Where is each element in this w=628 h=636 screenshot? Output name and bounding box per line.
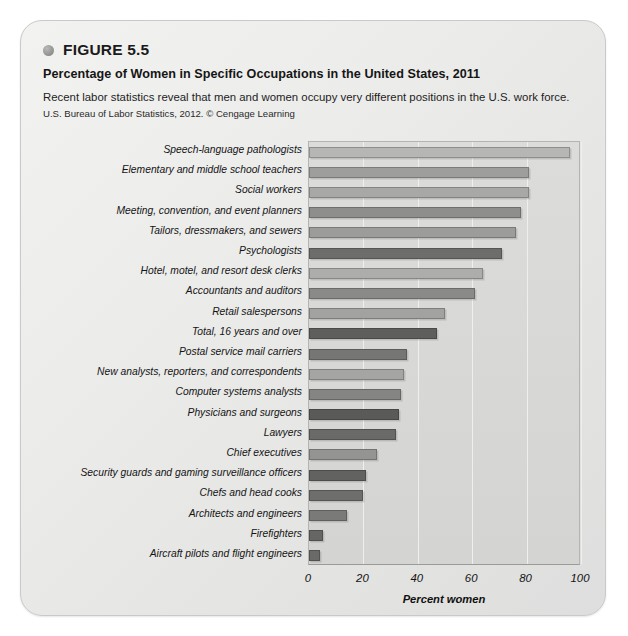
y-axis-tick-label: Chief executives: [50, 447, 302, 458]
y-axis-tick-label: New analysts, reporters, and corresponde…: [50, 366, 302, 377]
bar: [309, 288, 475, 299]
y-axis-tick-label: Security guards and gaming surveillance …: [50, 467, 302, 478]
bar: [309, 409, 399, 420]
y-axis-tick-label: Total, 16 years and over: [50, 326, 302, 337]
x-axis-tick-label: 60: [465, 572, 478, 584]
circle-bullet-icon: [43, 45, 54, 56]
figure-title: Percentage of Women in Specific Occupati…: [43, 67, 583, 81]
y-axis-tick-label: Aircraft pilots and flight engineers: [50, 548, 302, 559]
bar: [309, 510, 347, 521]
x-axis-tick-label: 100: [570, 572, 589, 584]
bar: [309, 248, 502, 259]
y-axis-tick-label: Elementary and middle school teachers: [50, 164, 302, 175]
y-axis-tick-label: Computer systems analysts: [50, 386, 302, 397]
y-axis-tick-label: Speech-language pathologists: [50, 144, 302, 155]
bar: [309, 268, 483, 279]
bar-rows: [309, 142, 579, 564]
y-axis-tick-label: Hotel, motel, and resort desk clerks: [50, 265, 302, 276]
y-axis-tick-label: Tailors, dressmakers, and sewers: [50, 225, 302, 236]
grid-line: [581, 142, 582, 564]
bar: [309, 530, 323, 541]
bar: [309, 207, 521, 218]
y-axis-tick-label: Chefs and head cooks: [50, 487, 302, 498]
bar: [309, 308, 445, 319]
y-axis-tick-label: Architects and engineers: [50, 508, 302, 519]
y-axis-tick-label: Physicians and surgeons: [50, 407, 302, 418]
figure-header: FIGURE 5.5 Percentage of Women in Specif…: [43, 41, 583, 119]
figure-source: U.S. Bureau of Labor Statistics, 2012. ©…: [43, 108, 583, 119]
bar-chart: Speech-language pathologistsElementary a…: [43, 137, 585, 603]
x-axis-tick-label: 20: [356, 572, 369, 584]
x-axis-tick-label: 80: [519, 572, 532, 584]
bar: [309, 227, 516, 238]
bar: [309, 147, 570, 158]
bar: [309, 328, 437, 339]
y-axis-tick-label: Meeting, convention, and event planners: [50, 205, 302, 216]
y-axis-tick-label: Social workers: [50, 184, 302, 195]
x-axis-tick-label: 40: [410, 572, 423, 584]
figure-number: FIGURE 5.5: [63, 41, 149, 59]
y-axis-tick-label: Lawyers: [50, 427, 302, 438]
bar: [309, 187, 529, 198]
x-axis-tick-label: 0: [305, 572, 311, 584]
figure-description: Recent labor statistics reveal that men …: [43, 90, 583, 104]
bar: [309, 349, 407, 360]
bar: [309, 449, 377, 460]
plot-area: [308, 141, 580, 565]
bar: [309, 470, 366, 481]
y-axis-tick-label: Accountants and auditors: [50, 285, 302, 296]
bar: [309, 389, 401, 400]
bar: [309, 369, 404, 380]
figure-card: FIGURE 5.5 Percentage of Women in Specif…: [20, 20, 606, 616]
y-axis-tick-label: Retail salespersons: [50, 306, 302, 317]
bar: [309, 550, 320, 561]
bar: [309, 490, 363, 501]
bar: [309, 429, 396, 440]
y-axis-tick-label: Postal service mail carriers: [50, 346, 302, 357]
y-axis-tick-label: Psychologists: [50, 245, 302, 256]
figure-number-row: FIGURE 5.5: [43, 41, 583, 59]
y-axis-tick-label: Firefighters: [50, 528, 302, 539]
bar: [309, 167, 529, 178]
x-axis-label: Percent women: [308, 593, 580, 605]
